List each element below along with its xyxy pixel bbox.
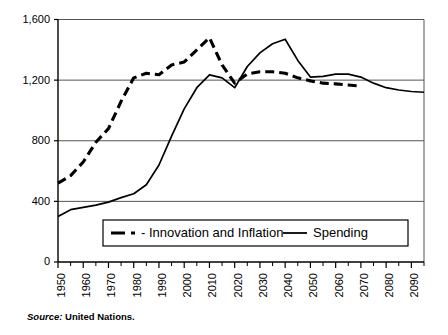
- y-tick-label: 800: [32, 134, 50, 146]
- x-tick-label: 1980: [131, 273, 143, 297]
- series-line: [58, 39, 424, 216]
- x-tick-label: 2000: [181, 273, 193, 297]
- x-tick-label: 2060: [333, 273, 345, 297]
- legend-label: - Innovation and Inflation: [141, 225, 283, 240]
- source-value: United Nations.: [65, 311, 135, 322]
- x-tick-label: 2040: [282, 273, 294, 297]
- data-series: [58, 38, 424, 217]
- x-axis-labels: 1950196019701980199020002010202020302040…: [55, 273, 420, 297]
- x-tick-label: 2030: [257, 273, 269, 297]
- x-tick-label: 1990: [156, 273, 168, 297]
- x-tick-label: 2020: [232, 273, 244, 297]
- x-tick-label: 1950: [55, 273, 67, 297]
- y-tick-label: 1,600: [22, 13, 50, 25]
- y-tick-label: 0: [44, 255, 50, 267]
- gridlines: [58, 20, 424, 202]
- chart-figure: 04008001,2001,600 1950196019701980199020…: [0, 0, 448, 335]
- x-tick-label: 2070: [358, 273, 370, 297]
- y-tick-label: 1,200: [22, 74, 50, 86]
- chart-legend: - Innovation and InflationSpending: [103, 220, 408, 246]
- y-tick-label: 400: [32, 195, 50, 207]
- x-tick-label: 2050: [307, 273, 319, 297]
- series-line: [58, 38, 361, 184]
- source-note: Source: United Nations.: [27, 311, 135, 322]
- x-tick-label: 1970: [105, 273, 117, 297]
- line-chart: 04008001,2001,600 1950196019701980199020…: [0, 0, 448, 335]
- y-axis-labels: 04008001,2001,600: [22, 13, 50, 268]
- source-label: Source:: [27, 311, 62, 322]
- x-tick-label: 2090: [408, 273, 420, 297]
- x-tick-label: 2010: [206, 273, 218, 297]
- x-tick-label: 1960: [80, 273, 92, 297]
- legend-label: Spending: [313, 225, 368, 240]
- x-tick-label: 2080: [383, 273, 395, 297]
